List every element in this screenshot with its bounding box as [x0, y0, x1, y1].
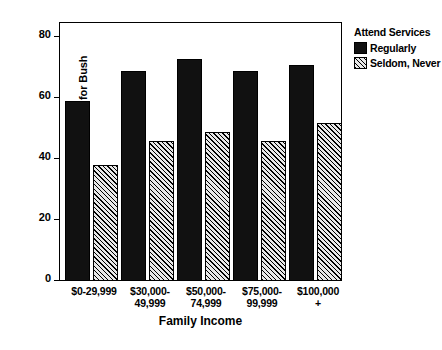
legend: Attend Services Regularly Seldom, Never	[354, 26, 442, 71]
legend-swatch-icon-seldom-never	[354, 57, 367, 69]
chart-figure: % Voting for Bush 0 20 40 60 80	[0, 0, 442, 350]
bar-regularly-1[interactable]	[121, 71, 146, 281]
legend-swatch-icon-regularly	[354, 42, 367, 54]
y-tick-mark	[54, 36, 59, 37]
bar-seldom-never-3[interactable]	[261, 141, 286, 281]
plot-area: % Voting for Bush 0 20 40 60 80	[59, 22, 342, 281]
legend-item-seldom-never[interactable]: Seldom, Never	[354, 56, 442, 70]
y-tick-label: 60	[25, 90, 51, 101]
x-axis-label: Family Income	[59, 314, 342, 328]
y-tick-label: 20	[25, 212, 51, 223]
legend-item-label: Seldom, Never	[370, 57, 440, 69]
x-tick-label-line2: +	[280, 298, 356, 310]
y-tick-label: 80	[25, 29, 51, 40]
bar-regularly-2[interactable]	[177, 59, 202, 281]
y-tick-mark	[54, 97, 59, 98]
x-tick-label-line1: $100,000	[280, 286, 356, 298]
legend-title: Attend Services	[354, 26, 442, 38]
bar-seldom-never-0[interactable]	[93, 165, 118, 281]
legend-item-label: Regularly	[370, 42, 416, 54]
y-tick-mark	[54, 280, 59, 281]
y-tick-mark	[54, 158, 59, 159]
bar-seldom-never-2[interactable]	[205, 132, 230, 281]
y-tick-label: 40	[25, 151, 51, 162]
bar-seldom-never-4[interactable]	[317, 123, 342, 281]
bar-regularly-3[interactable]	[233, 71, 258, 281]
y-tick-label: 0	[25, 273, 51, 284]
legend-item-regularly[interactable]: Regularly	[354, 41, 442, 55]
bar-seldom-never-1[interactable]	[149, 141, 174, 281]
bar-regularly-4[interactable]	[289, 65, 314, 281]
y-tick-mark	[54, 219, 59, 220]
bar-regularly-0[interactable]	[65, 101, 90, 281]
x-tick-label-4: $100,000 +	[280, 286, 356, 309]
